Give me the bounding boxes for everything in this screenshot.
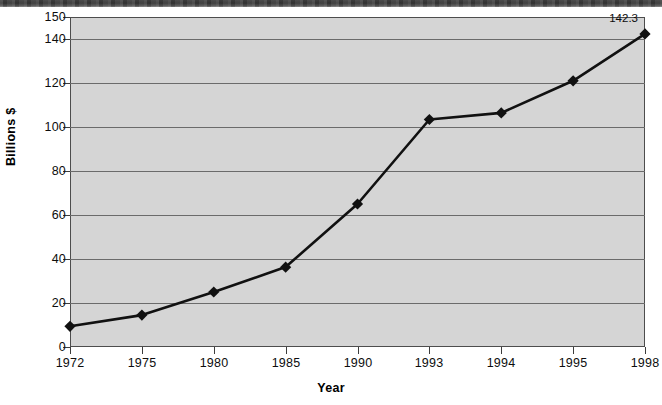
x-axis-tick (501, 347, 502, 354)
x-axis-tick (358, 347, 359, 354)
x-axis-tick (286, 347, 287, 354)
line-chart-figure: 020406080100120140150 197219751980198519… (0, 0, 662, 405)
x-axis-tick-label: 1985 (256, 357, 316, 370)
y-axis-tick-label: 140 (45, 33, 66, 46)
y-axis-title: Billions $ (4, 148, 18, 166)
x-axis-tick (70, 347, 71, 354)
gridline (70, 259, 645, 260)
x-axis-title: Year (0, 381, 662, 395)
x-axis-tick-label: 1993 (399, 357, 459, 370)
gridline (70, 303, 645, 304)
gridline (70, 83, 645, 84)
x-axis-tick-label: 1995 (543, 357, 603, 370)
y-axis-tick-label: 40 (52, 253, 66, 266)
y-axis-tick-label: 100 (45, 121, 66, 134)
data-point-value-label: 142.3 (600, 12, 638, 24)
x-axis-tick-label: 1990 (328, 357, 388, 370)
y-axis-tick-label: 20 (52, 297, 66, 310)
x-axis-tick-label: 1980 (184, 357, 244, 370)
x-axis-tick (429, 347, 430, 354)
y-axis-tick-label: 80 (52, 165, 66, 178)
x-axis-tick (214, 347, 215, 354)
plot-area (70, 17, 645, 347)
x-axis-tick-label: 1998 (615, 357, 662, 370)
x-axis-tick-label: 1972 (40, 357, 100, 370)
y-axis-tick-label: 60 (52, 209, 66, 222)
x-axis-tick (573, 347, 574, 354)
gridline (70, 215, 645, 216)
gridline (70, 127, 645, 128)
gridline (70, 171, 645, 172)
x-axis-tick (645, 347, 646, 354)
y-axis-tick-label: 120 (45, 77, 66, 90)
x-axis-tick-label: 1994 (471, 357, 531, 370)
x-axis-tick-label: 1975 (112, 357, 172, 370)
x-axis-tick (142, 347, 143, 354)
y-axis-tick-label: 150 (45, 11, 66, 24)
y-axis-tick-label: 0 (59, 341, 66, 354)
gridline (70, 39, 645, 40)
